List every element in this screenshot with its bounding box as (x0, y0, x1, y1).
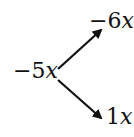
top-coefficient: −6 (89, 8, 121, 33)
factor-diagram: −5x −6x 1x (0, 0, 134, 137)
arrow-up-icon (58, 30, 101, 69)
top-branch-term: −6x (89, 10, 134, 32)
root-variable: x (45, 58, 57, 83)
root-term: −5x (13, 60, 58, 82)
bottom-branch-term: 1x (106, 106, 132, 128)
arrow-down-icon (58, 80, 101, 118)
root-coefficient: −5 (13, 58, 45, 83)
bottom-variable: x (120, 104, 132, 129)
bottom-coefficient: 1 (106, 104, 120, 129)
top-variable: x (121, 8, 133, 33)
